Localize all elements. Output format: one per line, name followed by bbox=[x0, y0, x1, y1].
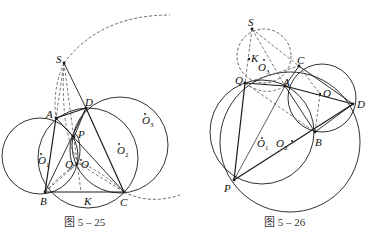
caption-5-25: 图 5 – 25 bbox=[64, 213, 105, 229]
figure-5-26 bbox=[210, 28, 360, 212]
label-c: C bbox=[120, 197, 127, 208]
label-o2: O2 bbox=[276, 138, 287, 152]
geometry-diagrams bbox=[0, 0, 369, 233]
caption-5-26: 图 5 – 26 bbox=[264, 213, 305, 229]
label-b: B bbox=[315, 137, 322, 148]
label-s: S bbox=[248, 17, 254, 28]
label-d: D bbox=[85, 97, 93, 108]
label-o3: O3 bbox=[142, 115, 153, 129]
circle-abd bbox=[288, 64, 356, 132]
label-o1: O1 bbox=[38, 155, 49, 169]
label-o: O bbox=[81, 159, 89, 170]
label-o3: O3 bbox=[258, 62, 269, 76]
label-d: D bbox=[357, 99, 365, 110]
label-b: B bbox=[40, 196, 47, 207]
label-s: S bbox=[56, 54, 62, 65]
label-o: O bbox=[323, 88, 331, 99]
label-o1: O1 bbox=[257, 138, 268, 152]
label-k: K bbox=[84, 196, 91, 207]
label-q: Q bbox=[65, 159, 73, 170]
label-o2: O2 bbox=[117, 145, 128, 159]
label-q: Q bbox=[235, 75, 243, 86]
dashed-arc bbox=[64, 15, 170, 63]
figure-5-25 bbox=[2, 15, 180, 208]
label-c: C bbox=[297, 55, 304, 66]
label-p: P bbox=[78, 129, 85, 140]
label-p: P bbox=[224, 183, 231, 194]
label-a: A bbox=[283, 77, 290, 88]
dashed-arc-lower bbox=[124, 192, 180, 199]
label-a: A bbox=[46, 109, 53, 120]
